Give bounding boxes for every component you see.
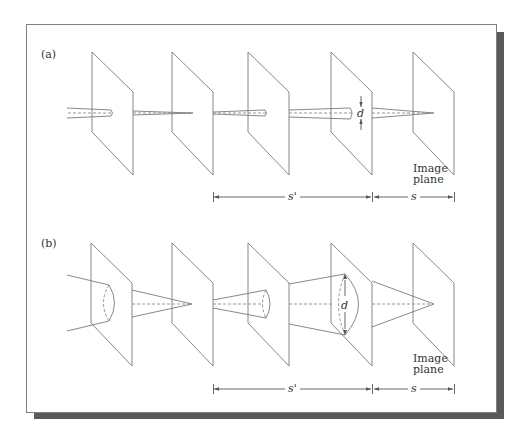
- diameter-label-b: d: [341, 299, 348, 312]
- figure: (a) d Image plane s' s: [0, 0, 529, 439]
- diameter-label-a: d: [357, 107, 364, 120]
- dim-s-prime-a: s': [288, 190, 297, 203]
- image-plane-label-a-2: plane: [413, 173, 444, 186]
- panel-b-label: (b): [41, 237, 57, 250]
- image-plane-label-b-2: plane: [413, 363, 444, 376]
- panel-a-label: (a): [41, 48, 56, 61]
- dim-s-prime-b: s': [288, 382, 297, 395]
- dim-s-a: s: [411, 190, 417, 203]
- dim-s-b: s: [411, 382, 417, 395]
